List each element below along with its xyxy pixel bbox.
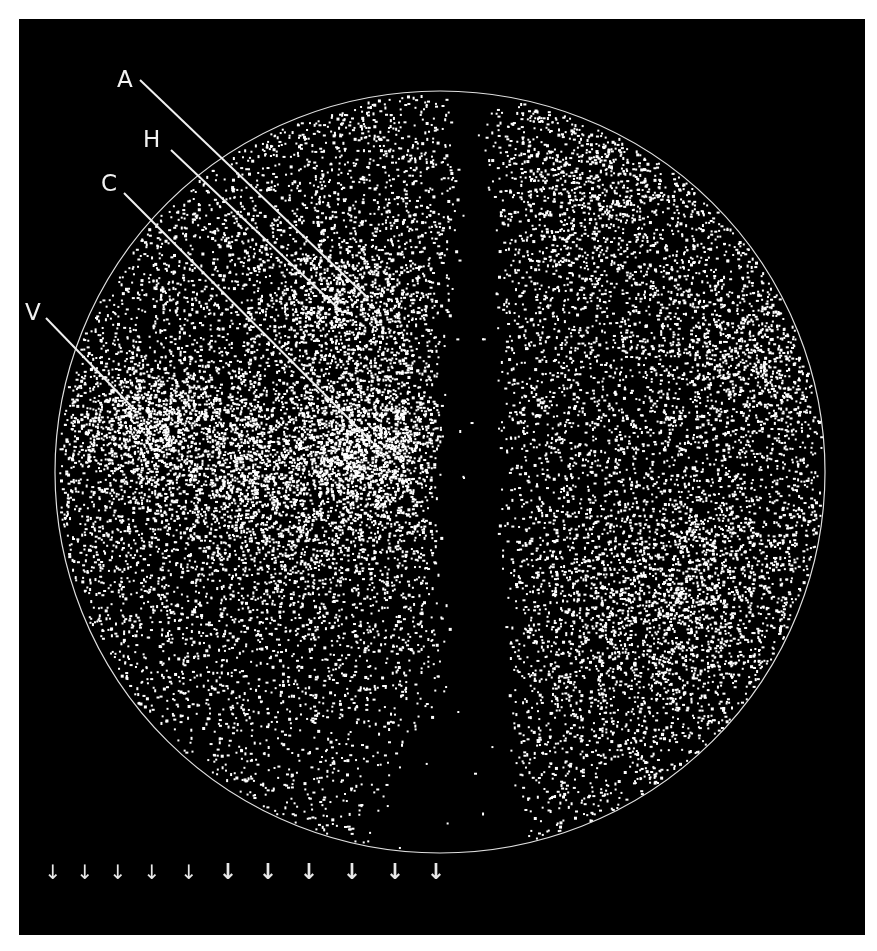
- down-arrow-icon: ↓: [110, 862, 127, 882]
- down-arrow-icon: ↓: [300, 862, 318, 882]
- down-arrow-icon: ↓: [386, 862, 404, 882]
- down-arrow-icon: ↓: [144, 862, 161, 882]
- label-C: C: [101, 172, 117, 195]
- down-arrow-icon: ↓: [181, 862, 198, 882]
- down-arrow-icon: ↓: [45, 862, 62, 882]
- down-arrow-icon: ↓: [343, 862, 361, 882]
- down-arrow-icon: ↓: [259, 862, 277, 882]
- down-arrow-icon: ↓: [427, 862, 445, 882]
- clipped-caption-text: [20, 0, 720, 5]
- label-A: A: [117, 68, 133, 91]
- galaxy-distribution-plot: [19, 19, 865, 935]
- figure: A H C V ↓↓↓↓↓↓↓↓↓↓↓: [0, 0, 877, 951]
- label-V: V: [25, 301, 41, 324]
- sky-map-panel: A H C V ↓↓↓↓↓↓↓↓↓↓↓: [19, 19, 865, 935]
- label-H: H: [143, 128, 160, 151]
- down-arrow-icon: ↓: [77, 862, 94, 882]
- down-arrow-icon: ↓: [219, 862, 237, 882]
